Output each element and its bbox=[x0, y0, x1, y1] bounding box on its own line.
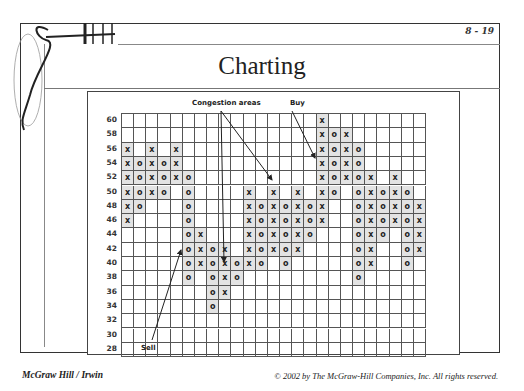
footer-copyright: © 2002 by The McGraw-Hill Companies, Inc… bbox=[274, 371, 498, 381]
footer-publisher: McGraw Hill / Irwin bbox=[22, 370, 103, 380]
annotation-arrows bbox=[0, 0, 524, 391]
